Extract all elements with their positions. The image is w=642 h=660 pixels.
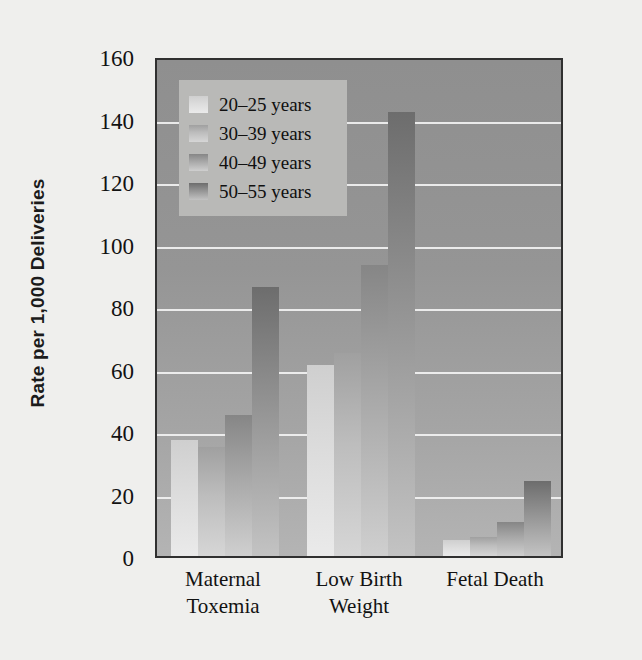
x-axis-tick-maternal-toxemia: MaternalToxemia — [155, 566, 291, 620]
x-axis-tick-fetal-death: Fetal Death — [427, 566, 563, 593]
x-axis-tick-line: Maternal — [155, 566, 291, 593]
legend-swatch-icon-2 — [189, 154, 208, 171]
bar-fetal-death-series-3 — [524, 481, 551, 556]
y-axis-tick-100: 100 — [100, 234, 135, 257]
y-axis-tick-120: 120 — [100, 172, 135, 195]
y-axis-title: Rate per 1,000 Deliveries — [27, 143, 49, 443]
bar-low-birth-weight-series-1 — [334, 353, 361, 556]
y-axis-tick-40: 40 — [111, 422, 134, 445]
legend-item-2: 40–49 years — [189, 148, 339, 177]
gridline-100 — [157, 247, 561, 249]
x-axis-tick-line: Weight — [291, 593, 427, 620]
legend-label-0: 20–25 years — [219, 94, 311, 116]
gridline-80 — [157, 309, 561, 311]
legend-label-3: 50–55 years — [219, 181, 311, 203]
x-axis-tick-low-birth-weight: Low BirthWeight — [291, 566, 427, 620]
plot-area: 20–25 years30–39 years40–49 years50–55 y… — [155, 58, 563, 558]
bar-fetal-death-series-1 — [470, 537, 497, 556]
chart-figure: Rate per 1,000 Deliveries 02040608010012… — [0, 0, 642, 660]
legend-swatch-icon-0 — [189, 96, 208, 113]
bar-fetal-death-series-0 — [443, 540, 470, 556]
chart-legend: 20–25 years30–39 years40–49 years50–55 y… — [179, 80, 347, 216]
bar-low-birth-weight-series-0 — [307, 365, 334, 556]
legend-label-2: 40–49 years — [219, 152, 311, 174]
legend-swatch-icon-3 — [189, 183, 208, 200]
legend-swatch-icon-1 — [189, 125, 208, 142]
bar-maternal-toxemia-series-3 — [252, 287, 279, 556]
legend-item-0: 20–25 years — [189, 90, 339, 119]
legend-item-1: 30–39 years — [189, 119, 339, 148]
x-axis-tick-labels: MaternalToxemiaLow BirthWeightFetal Deat… — [155, 566, 563, 636]
bar-maternal-toxemia-series-0 — [171, 440, 198, 556]
x-axis-tick-line: Low Birth — [291, 566, 427, 593]
y-axis-tick-160: 160 — [100, 47, 135, 70]
bar-low-birth-weight-series-2 — [361, 265, 388, 556]
y-axis-tick-60: 60 — [111, 359, 134, 382]
legend-item-3: 50–55 years — [189, 177, 339, 206]
bar-maternal-toxemia-series-2 — [225, 415, 252, 556]
y-axis-tick-labels: 020406080100120140160 — [74, 58, 144, 558]
bar-fetal-death-series-2 — [497, 522, 524, 556]
y-axis-tick-20: 20 — [111, 484, 134, 507]
x-axis-tick-line: Fetal Death — [427, 566, 563, 593]
y-axis-tick-140: 140 — [100, 109, 135, 132]
y-axis-tick-0: 0 — [123, 547, 135, 570]
bar-low-birth-weight-series-3 — [388, 112, 415, 556]
y-axis-tick-80: 80 — [111, 297, 134, 320]
x-axis-tick-line: Toxemia — [155, 593, 291, 620]
legend-label-1: 30–39 years — [219, 123, 311, 145]
bar-maternal-toxemia-series-1 — [198, 447, 225, 556]
